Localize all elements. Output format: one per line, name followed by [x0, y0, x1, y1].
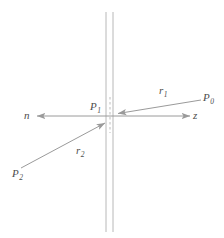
label-r1: r1 — [159, 85, 167, 96]
label-p1-sub: 1 — [97, 106, 101, 115]
label-p1-base: P — [90, 100, 97, 112]
optics-interface-diagram: P0 P1 P2 r1 r2 n z — [0, 0, 224, 238]
label-n-base: n — [24, 109, 30, 121]
label-p2-base: P — [12, 167, 19, 179]
label-p0: P0 — [203, 92, 214, 103]
diagram-canvas — [0, 0, 224, 238]
label-r2-sub: 2 — [81, 150, 85, 159]
label-p2-sub: 2 — [19, 173, 23, 182]
label-z-base: z — [193, 109, 197, 121]
label-z: z — [193, 110, 197, 121]
label-p1: P1 — [90, 101, 101, 112]
label-p0-sub: 0 — [210, 97, 214, 106]
label-p2: P2 — [12, 168, 23, 179]
label-n: n — [24, 110, 30, 121]
label-r2: r2 — [76, 145, 84, 156]
label-r2-base: r — [76, 144, 80, 156]
label-p0-base: P — [203, 91, 210, 103]
ray-r1-arrow — [118, 100, 201, 114]
ray-r2-arrow — [21, 123, 105, 168]
label-r1-sub: 1 — [164, 90, 168, 99]
label-r1-base: r — [159, 84, 163, 96]
